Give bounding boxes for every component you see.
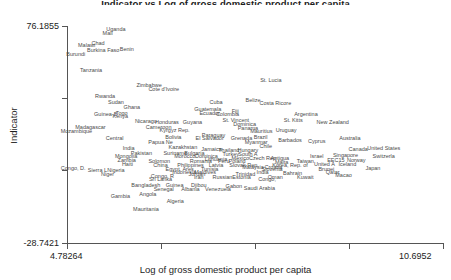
scatter-point-label: Cyprus xyxy=(308,138,325,144)
scatter-points-layer: UgandaMaliChadMalawiBurkina FasoBeninBur… xyxy=(0,0,451,280)
scatter-point-label: Burkina Faso xyxy=(87,47,119,53)
scatter-point-label: Barbados xyxy=(278,137,302,143)
scatter-point-label: Gambia xyxy=(111,193,130,199)
scatter-point-label: Congo, D. xyxy=(61,165,86,171)
scatter-point-label: Mauritius xyxy=(250,128,272,134)
scatter-point-label: Mali xyxy=(103,30,113,36)
scatter-point-label: Saudi Arabia xyxy=(244,185,275,191)
scatter-point-label: Senegal xyxy=(154,186,174,192)
scatter-point-label: Benin xyxy=(120,46,134,52)
scatter-chart: Indicator vs Log of gross domestic produ… xyxy=(0,0,451,280)
scatter-point-label: Chile xyxy=(259,143,272,149)
scatter-point-label: Iceland xyxy=(339,161,357,167)
scatter-point-label: Kuwait xyxy=(297,174,314,180)
scatter-point-label: Macao xyxy=(335,172,352,178)
scatter-point-label: Mauritania xyxy=(133,206,159,212)
scatter-point-label: St. Lucia xyxy=(260,77,281,83)
scatter-point-label: Estonia xyxy=(232,174,250,180)
scatter-point-label: Colombia xyxy=(216,111,239,117)
scatter-point-label: Tanzania xyxy=(80,67,102,73)
scatter-point-label: Costa Ricore xyxy=(259,100,291,106)
scatter-point-label: El Salvador xyxy=(196,135,224,141)
scatter-point-label: Russian xyxy=(212,174,232,180)
scatter-point-label: Kenya xyxy=(113,113,129,119)
scatter-point-label: Albania xyxy=(181,186,199,192)
scatter-point-label: Belize xyxy=(246,97,261,103)
scatter-point-label: Nicaragu xyxy=(135,118,157,124)
scatter-point-label: Niger xyxy=(101,171,114,177)
scatter-point-label: Sudan xyxy=(108,99,124,105)
scatter-point-label: St. Kitts xyxy=(284,117,303,123)
scatter-point-label: Central xyxy=(106,135,124,141)
scatter-point-label: Cote d'Ivoire xyxy=(148,86,179,92)
scatter-point-label: Japan xyxy=(365,165,380,171)
scatter-point-label: Venezuela xyxy=(205,186,231,192)
scatter-point-label: Burundi xyxy=(66,51,85,57)
scatter-point-label: Uruguay xyxy=(276,127,297,133)
scatter-point-label: Congo, xyxy=(258,176,276,182)
scatter-point-label: Australia xyxy=(339,135,360,141)
scatter-point-label: Switzerla xyxy=(373,153,395,159)
scatter-point-label: Mozambique xyxy=(61,128,93,134)
scatter-point-label: Kyrgyz Rep. xyxy=(160,127,190,133)
scatter-point-label: India xyxy=(257,169,269,175)
scatter-point-label: Algeria xyxy=(167,198,184,204)
scatter-point-label: United States xyxy=(367,145,400,151)
scatter-point-label: Cuba xyxy=(209,99,222,105)
scatter-point-label: Guyana xyxy=(183,119,202,125)
scatter-point-label: Iran xyxy=(194,174,203,180)
scatter-point-label: Angola xyxy=(139,191,156,197)
scatter-point-label: New Zealand xyxy=(317,119,349,125)
